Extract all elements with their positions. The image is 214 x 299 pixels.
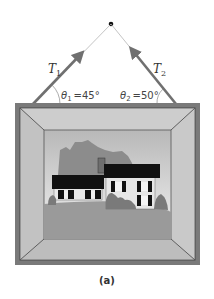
angle-label-right: θ2=50° [120, 90, 159, 103]
picture-hanging-diagram: T1 T2 θ1=45° θ2=50° [0, 0, 214, 299]
figure-caption: (a) [99, 275, 115, 286]
tension-label-right: T2 [153, 62, 166, 78]
tension-label-left: T1 [48, 62, 61, 78]
angle-label-left: θ1=45° [61, 90, 100, 103]
house-painting [44, 130, 171, 239]
angle-arc-left [52, 85, 60, 104]
